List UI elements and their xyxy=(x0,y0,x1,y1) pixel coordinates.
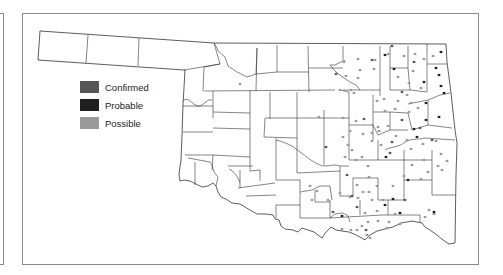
possible-marker xyxy=(428,209,431,211)
oklahoma-county-map xyxy=(0,0,503,275)
possible-marker xyxy=(397,76,400,78)
probable-marker xyxy=(385,156,388,158)
possible-marker xyxy=(344,156,347,158)
possible-marker xyxy=(377,220,380,222)
possible-marker xyxy=(386,227,389,229)
legend-item-confirmed: Confirmed xyxy=(80,78,149,96)
legend-item-possible: Possible xyxy=(80,114,149,132)
possible-marker xyxy=(384,110,387,112)
possible-marker xyxy=(410,102,413,104)
possible-marker xyxy=(378,130,381,132)
markers-possible xyxy=(239,53,449,239)
possible-marker xyxy=(345,75,348,77)
possible-marker xyxy=(371,132,374,134)
possible-marker xyxy=(311,199,314,201)
possible-marker xyxy=(433,213,436,215)
possible-marker xyxy=(367,221,370,223)
legend-label-probable: Probable xyxy=(105,100,143,111)
probable-marker xyxy=(384,204,387,206)
possible-marker xyxy=(342,117,345,119)
possible-marker xyxy=(437,165,440,167)
legend: Confirmed Probable Possible xyxy=(80,78,149,132)
legend-label-possible: Possible xyxy=(105,118,141,129)
possible-marker xyxy=(441,169,444,171)
legend-item-probable: Probable xyxy=(80,96,149,114)
probable-marker xyxy=(440,85,443,87)
possible-marker xyxy=(357,58,360,60)
possible-marker xyxy=(351,149,354,151)
confirmed-marker xyxy=(404,199,407,201)
confirmed-marker xyxy=(351,195,354,197)
probable-marker xyxy=(425,119,428,121)
markers-probable xyxy=(341,51,446,217)
confirmed-marker xyxy=(391,45,394,47)
possible-marker xyxy=(327,199,330,201)
possible-marker xyxy=(446,160,449,162)
probable-marker xyxy=(425,102,428,104)
probable-marker xyxy=(407,179,410,181)
possible-marker xyxy=(369,237,372,239)
possible-marker xyxy=(410,148,413,150)
confirmed-marker xyxy=(371,59,374,61)
confirmed-marker xyxy=(356,206,359,208)
confirmed-marker xyxy=(365,229,368,231)
possible-marker xyxy=(318,116,321,118)
possible-marker xyxy=(387,125,390,127)
possible-marker xyxy=(374,59,377,61)
possible-marker xyxy=(367,165,370,167)
possible-marker xyxy=(377,126,380,128)
possible-marker xyxy=(427,171,430,173)
probable-marker xyxy=(341,215,344,217)
possible-marker xyxy=(417,107,420,109)
possible-marker xyxy=(411,164,414,166)
possible-marker xyxy=(420,178,423,180)
possible-marker xyxy=(420,87,423,89)
confirmed-marker xyxy=(325,146,328,148)
possible-marker xyxy=(361,156,364,158)
possible-marker xyxy=(355,120,358,122)
possible-marker xyxy=(406,139,409,141)
confirmed-marker xyxy=(401,91,404,93)
possible-marker xyxy=(412,70,415,72)
confirmed-marker xyxy=(413,61,416,63)
probable-marker xyxy=(399,212,402,214)
possible-marker xyxy=(388,221,391,223)
possible-marker xyxy=(440,153,443,155)
possible-marker xyxy=(350,229,353,231)
possible-marker xyxy=(395,135,398,137)
probable-marker xyxy=(435,67,438,69)
possible-marker xyxy=(362,191,365,193)
possible-marker xyxy=(403,175,406,177)
possible-marker xyxy=(368,176,371,178)
possible-swatch-icon xyxy=(80,117,99,129)
possible-marker xyxy=(383,98,386,100)
possible-marker xyxy=(423,58,426,60)
possible-marker xyxy=(387,53,390,55)
possible-marker xyxy=(339,192,342,194)
state-outline xyxy=(38,31,457,244)
possible-marker xyxy=(408,82,411,84)
possible-marker xyxy=(362,133,365,135)
possible-marker xyxy=(376,185,379,187)
confirmed-marker xyxy=(431,139,434,141)
possible-marker xyxy=(341,228,344,230)
possible-marker xyxy=(347,144,350,146)
confirmed-marker xyxy=(332,211,335,213)
possible-marker xyxy=(435,140,438,142)
probable-marker xyxy=(433,211,436,213)
possible-marker xyxy=(316,190,319,192)
possible-marker xyxy=(422,143,425,145)
possible-marker xyxy=(355,159,358,161)
possible-marker xyxy=(394,108,397,110)
confirmed-swatch-icon xyxy=(80,81,99,93)
confirmed-marker xyxy=(391,141,394,143)
possible-marker xyxy=(356,229,359,231)
probable-marker xyxy=(443,92,446,94)
probable-marker xyxy=(423,81,426,83)
possible-marker xyxy=(364,212,367,214)
probable-marker xyxy=(392,198,395,200)
possible-marker xyxy=(350,89,353,91)
possible-marker xyxy=(339,89,342,91)
possible-marker xyxy=(376,100,379,102)
possible-marker xyxy=(397,100,400,102)
